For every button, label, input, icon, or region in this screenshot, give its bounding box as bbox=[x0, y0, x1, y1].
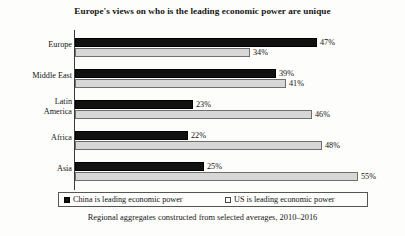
bar-china-latin-america bbox=[75, 100, 193, 109]
bar-us-africa bbox=[75, 141, 322, 150]
bar-value-us-africa: 48% bbox=[325, 140, 340, 151]
bar-value-us-middle-east: 41% bbox=[289, 78, 304, 89]
bar-row-china-middle-east: 39% bbox=[75, 69, 276, 78]
bar-us-europe bbox=[75, 48, 250, 57]
chart-footnote: Regional aggregates constructed from sel… bbox=[0, 213, 405, 222]
y-axis-tick-label-line: Europe bbox=[48, 40, 72, 49]
bar-value-us-europe: 34% bbox=[253, 47, 268, 58]
filled-square-icon bbox=[64, 197, 70, 203]
bar-china-africa bbox=[75, 131, 188, 140]
y-axis-tick-label-africa: Africa bbox=[0, 133, 72, 143]
bar-row-us-latin-america: 46% bbox=[75, 110, 312, 119]
hollow-square-icon bbox=[225, 197, 231, 203]
bar-us-middle-east bbox=[75, 79, 286, 88]
bar-china-europe bbox=[75, 38, 317, 47]
bar-china-asia bbox=[75, 162, 204, 171]
bar-row-china-asia: 25% bbox=[75, 162, 204, 171]
bar-row-us-middle-east: 41% bbox=[75, 79, 286, 88]
y-axis-tick-label-line: Asia bbox=[57, 164, 72, 173]
bar-us-latin-america bbox=[75, 110, 312, 119]
legend-item-label: China is leading economic power bbox=[73, 195, 183, 204]
bar-row-us-europe: 34% bbox=[75, 48, 250, 57]
bar-china-middle-east bbox=[75, 69, 276, 78]
bar-row-china-africa: 22% bbox=[75, 131, 188, 140]
legend-item-label: US is leading economic power bbox=[234, 195, 335, 204]
y-axis-tick-label-line: America bbox=[0, 107, 72, 117]
bar-row-us-asia: 55% bbox=[75, 172, 358, 181]
bar-value-us-asia: 55% bbox=[361, 171, 376, 182]
y-axis-tick-label-asia: Asia bbox=[0, 164, 72, 174]
bar-value-china-asia: 25% bbox=[207, 161, 222, 172]
y-axis-tick-label-middle-east: Middle East bbox=[0, 71, 72, 81]
chart-figure: Europe's views on who is the leading eco… bbox=[0, 0, 405, 236]
bar-value-china-latin-america: 23% bbox=[196, 99, 211, 110]
y-axis-tick-label-europe: Europe bbox=[0, 40, 72, 50]
y-axis-tick-label-line: Africa bbox=[51, 133, 72, 142]
bar-row-china-latin-america: 23% bbox=[75, 100, 193, 109]
page-title: Europe's views on who is the leading eco… bbox=[0, 6, 405, 16]
y-axis-tick-label-line: Latin bbox=[0, 97, 72, 107]
chart-legend: China is leading economic power US is le… bbox=[58, 192, 368, 207]
bar-value-china-europe: 47% bbox=[320, 37, 335, 48]
legend-item-china: China is leading economic power bbox=[64, 193, 183, 206]
bar-value-us-latin-america: 46% bbox=[315, 109, 330, 120]
bar-row-china-europe: 47% bbox=[75, 38, 317, 47]
plot-area: Europe 47% 34% Middle East 39% 41% bbox=[0, 28, 405, 190]
legend-item-us: US is leading economic power bbox=[225, 193, 335, 206]
bar-value-china-africa: 22% bbox=[191, 130, 206, 141]
y-axis-tick-label-latin-america: Latin America bbox=[0, 97, 72, 116]
bar-row-us-africa: 48% bbox=[75, 141, 322, 150]
bar-us-asia bbox=[75, 172, 358, 181]
y-axis-tick-label-line: Middle East bbox=[32, 71, 72, 80]
